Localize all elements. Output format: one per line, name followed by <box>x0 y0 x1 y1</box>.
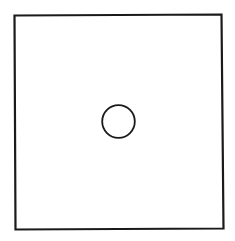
diagram-canvas <box>0 0 235 241</box>
background <box>0 0 235 241</box>
